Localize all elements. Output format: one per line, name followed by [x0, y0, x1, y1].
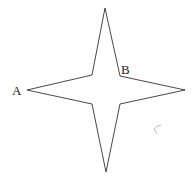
star-outline: [27, 8, 185, 172]
label-a: A: [12, 83, 22, 98]
label-b: B: [121, 62, 130, 77]
stray-mark: [154, 125, 161, 134]
star-diagram: A B: [0, 0, 194, 183]
